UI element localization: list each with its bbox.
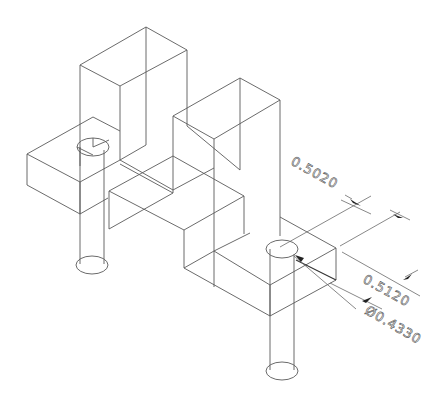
arrow-icon: [403, 274, 412, 280]
middle-block: [109, 156, 244, 230]
left-cylinder: [76, 138, 109, 274]
tall-box-left: [80, 27, 187, 166]
right-cylinder: [266, 240, 298, 380]
lower-step-block: [184, 196, 270, 316]
dim-label-0-5020: 0.5020: [289, 154, 341, 192]
dim-label-diameter: Ø0.4330: [363, 303, 425, 347]
front-right-slab: [214, 217, 336, 316]
left-slab: [27, 117, 120, 214]
cad-drawing: 0.5020 0.5120 Ø0.4330: [0, 0, 447, 404]
dimension-0-5120: 0.5120: [340, 210, 420, 310]
tall-box-right: [173, 78, 280, 287]
dimension-0-5020: 0.5020: [280, 154, 371, 247]
